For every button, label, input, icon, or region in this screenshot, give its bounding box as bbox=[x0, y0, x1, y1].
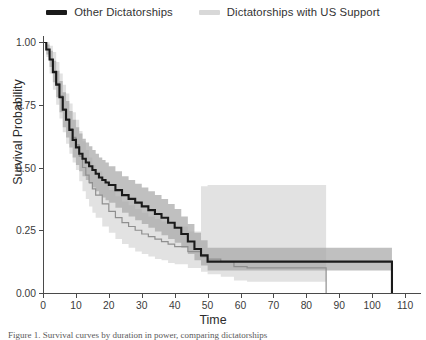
x-tick-label-60: 60 bbox=[235, 300, 246, 311]
x-tick-100 bbox=[372, 294, 373, 298]
y-tick-label-0.25: 0.25 bbox=[16, 225, 36, 236]
x-tick-label-100: 100 bbox=[364, 300, 381, 311]
confidence-band-other-dictatorships bbox=[43, 42, 392, 293]
legend-label-us-supported-dictatorships: Dictatorships with US Support bbox=[227, 6, 380, 18]
x-tick-20 bbox=[109, 294, 110, 298]
legend-swatch-us-supported-dictatorships bbox=[199, 10, 220, 15]
x-tick-label-90: 90 bbox=[334, 300, 345, 311]
y-tick-label-1.00: 1.00 bbox=[16, 37, 36, 48]
x-tick-0 bbox=[43, 294, 44, 298]
x-tick-label-40: 40 bbox=[169, 300, 180, 311]
legend-entry-other-dictatorships: Other Dictatorships bbox=[46, 6, 173, 18]
legend-label-other-dictatorships: Other Dictatorships bbox=[74, 6, 173, 18]
y-tick-0.25 bbox=[39, 230, 43, 231]
y-axis-line bbox=[43, 36, 44, 293]
x-tick-label-0: 0 bbox=[40, 300, 46, 311]
x-tick-110 bbox=[405, 294, 406, 298]
plot-area bbox=[43, 42, 415, 293]
y-tick-0.50 bbox=[39, 168, 43, 169]
x-tick-label-80: 80 bbox=[301, 300, 312, 311]
x-tick-80 bbox=[306, 294, 307, 298]
y-tick-label-0.00: 0.00 bbox=[16, 288, 36, 299]
legend-swatch-other-dictatorships bbox=[46, 10, 67, 15]
x-tick-label-10: 10 bbox=[70, 300, 81, 311]
x-tick-label-20: 20 bbox=[103, 300, 114, 311]
x-tick-label-70: 70 bbox=[268, 300, 279, 311]
x-tick-60 bbox=[241, 294, 242, 298]
x-tick-label-30: 30 bbox=[136, 300, 147, 311]
x-tick-label-110: 110 bbox=[397, 300, 413, 311]
x-tick-90 bbox=[339, 294, 340, 298]
x-tick-label-50: 50 bbox=[202, 300, 213, 311]
y-tick-0.00 bbox=[39, 293, 43, 294]
x-axis-line bbox=[43, 293, 421, 294]
x-tick-40 bbox=[175, 294, 176, 298]
x-tick-30 bbox=[142, 294, 143, 298]
legend-entry-us-supported-dictatorships: Dictatorships with US Support bbox=[199, 6, 380, 18]
survival-curves-svg bbox=[43, 42, 415, 293]
x-axis-title: Time bbox=[0, 313, 426, 327]
y-axis-title: Survival Probability bbox=[11, 52, 25, 212]
y-tick-1.00 bbox=[39, 42, 43, 43]
chart-legend: Other Dictatorships Dictatorships with U… bbox=[0, 4, 426, 20]
x-tick-10 bbox=[76, 294, 77, 298]
x-tick-50 bbox=[208, 294, 209, 298]
y-tick-0.75 bbox=[39, 105, 43, 106]
x-tick-70 bbox=[273, 294, 274, 298]
figure-caption: Figure 1. Survival curves by duration in… bbox=[8, 330, 418, 340]
